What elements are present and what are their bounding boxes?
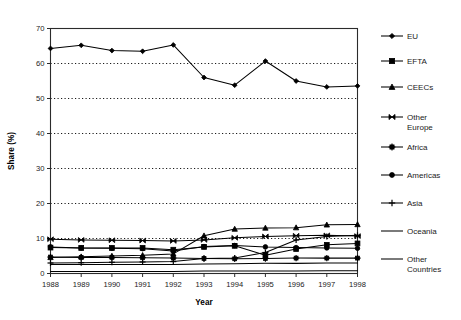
x-tick-label-1994: 1994: [226, 280, 243, 289]
series-americas: [48, 243, 360, 253]
legend-entry-eu: EU: [381, 32, 418, 41]
legend-entry-asia: Asia: [381, 199, 423, 208]
marker-circle: [110, 246, 115, 251]
legend-label: Oceania: [407, 227, 437, 236]
marker-square: [389, 58, 394, 63]
series-line: [51, 45, 358, 87]
x-tick-label-1992: 1992: [165, 280, 182, 289]
marker-circle: [48, 245, 53, 250]
marker-circle: [79, 246, 84, 251]
series-eu: [48, 43, 360, 90]
series-efta: [48, 241, 360, 258]
y-tick-label-50: 50: [36, 94, 44, 103]
marker-square: [355, 241, 360, 246]
marker-circle: [390, 173, 395, 178]
series-ceecs: [48, 222, 360, 260]
x-tick-label-1993: 1993: [196, 280, 213, 289]
legend-entry-other: OtherCountries: [381, 255, 441, 274]
line-chart-figure: 0102030405060701988198919901991199219931…: [0, 0, 461, 320]
marker-circle: [325, 246, 330, 251]
legend-label: EFTA: [407, 57, 428, 66]
y-axis-title: Share (%): [7, 132, 16, 170]
series-line: [51, 271, 358, 272]
marker-circle: [294, 245, 299, 250]
legend-label: CEECs: [407, 83, 433, 92]
legend-label: Africa: [407, 143, 428, 152]
marker-diamond: [140, 49, 145, 54]
marker-bowtie: [389, 114, 395, 119]
x-tick-label-1998: 1998: [349, 280, 366, 289]
marker-diamond: [110, 48, 115, 53]
series-line: [51, 263, 358, 264]
legend-label: Other: [407, 255, 427, 264]
legend-entry-americas: Americas: [381, 171, 440, 180]
marker-diamond: [48, 46, 53, 51]
legend-entry-oceania: Oceania: [381, 227, 437, 236]
marker-bowtie: [78, 238, 84, 243]
x-tick-label-1996: 1996: [288, 280, 305, 289]
legend-label: EU: [407, 32, 418, 41]
y-tick-label-10: 10: [36, 234, 44, 243]
series-line: [51, 225, 358, 258]
legend-label: Americas: [407, 171, 440, 180]
x-tick-label-1989: 1989: [73, 280, 90, 289]
y-tick-label-70: 70: [36, 24, 44, 33]
marker-diamond: [324, 85, 329, 90]
marker-bowtie: [171, 239, 177, 244]
legend-label: Other: [407, 113, 427, 122]
legend-label-continued: Europe: [407, 123, 433, 132]
marker-circle: [140, 246, 145, 251]
y-tick-label-60: 60: [36, 59, 44, 68]
legend-entry-africa: Africa: [381, 143, 428, 152]
x-tick-label-1997: 1997: [318, 280, 335, 289]
chart-canvas: 0102030405060701988198919901991199219931…: [0, 0, 461, 320]
legend-entry-efta: EFTA: [381, 57, 428, 66]
y-tick-label-0: 0: [40, 269, 44, 278]
y-tick-label-30: 30: [36, 164, 44, 173]
marker-diamond: [79, 43, 84, 48]
x-tick-label-1988: 1988: [42, 280, 59, 289]
marker-circle: [202, 244, 207, 249]
marker-bowtie: [232, 235, 238, 240]
marker-circle: [171, 249, 176, 254]
legend-label-continued: Countries: [407, 265, 441, 274]
legend-label: Asia: [407, 199, 423, 208]
marker-circle: [355, 246, 360, 251]
x-axis-title: Year: [195, 298, 213, 307]
marker-circle: [232, 243, 237, 248]
marker-circle: [263, 245, 268, 250]
y-tick-label-20: 20: [36, 199, 44, 208]
series-oceania: [51, 263, 358, 264]
marker-bowtie: [109, 238, 115, 243]
marker-diamond: [389, 33, 394, 38]
series-other-countries: [51, 271, 358, 272]
legend-entry-ceecs: CEECs: [381, 83, 433, 92]
x-tick-label-1995: 1995: [257, 280, 274, 289]
x-tick-label-1990: 1990: [103, 280, 120, 289]
y-tick-label-40: 40: [36, 129, 44, 138]
marker-bowtie: [263, 234, 269, 239]
marker-diamond: [355, 84, 360, 89]
x-tick-label-1991: 1991: [134, 280, 151, 289]
legend-entry-other: OtherEurope: [381, 113, 433, 132]
